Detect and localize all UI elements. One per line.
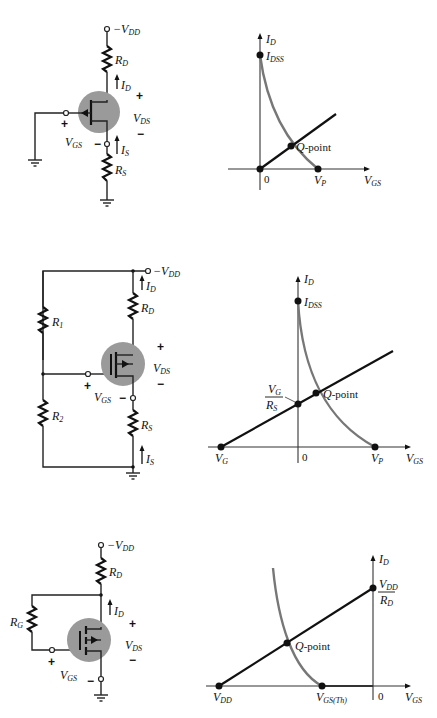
id-label: ID — [120, 78, 131, 93]
load-line — [221, 351, 393, 447]
vp-point — [315, 166, 322, 173]
id-label: ID — [145, 279, 156, 294]
r2-label: R2 — [51, 409, 63, 424]
intercept-point — [370, 585, 377, 592]
x-axis-label: VGS — [406, 451, 423, 466]
vds-minus: − — [157, 377, 164, 391]
id-label: ID — [113, 604, 124, 619]
intercept-label: VDD RD — [378, 577, 398, 608]
vds-label: VDS — [125, 638, 142, 653]
ground-icon — [94, 695, 108, 701]
vgs-label: VGS — [60, 668, 77, 683]
vgs-plus: + — [61, 117, 68, 131]
rs-label: RS — [140, 418, 152, 433]
vds-plus: + — [136, 89, 143, 103]
graph-jfet-self-bias: ID VGS IDSS 0 VP Q-point — [228, 32, 381, 190]
resistor-rd — [97, 558, 105, 584]
supply-terminal — [146, 269, 151, 274]
figure-canvas: −VDD RD ID + VGS − + VDS − IS — [0, 0, 437, 718]
x-axis-label: VGS — [364, 173, 381, 188]
intercept-point — [295, 401, 302, 408]
q-point — [284, 640, 291, 647]
vdd-point — [216, 683, 223, 690]
y-axis-label: ID — [303, 272, 314, 287]
resistor-rs — [103, 154, 111, 181]
vds-plus: + — [129, 617, 136, 631]
rg-label: RG — [9, 615, 23, 630]
ground-icon — [28, 160, 42, 166]
svg-text:RS: RS — [265, 398, 277, 413]
vg-label: VG — [215, 451, 228, 466]
origin-label: 0 — [378, 690, 384, 702]
vth-point — [319, 683, 326, 690]
resistor-rg — [28, 606, 36, 632]
rs-label: RS — [114, 163, 126, 178]
is-label: IS — [120, 143, 129, 158]
resistor-r1 — [39, 307, 47, 333]
vds-minus: − — [137, 127, 144, 141]
q-point — [288, 143, 295, 150]
idss-label: IDSS — [265, 49, 284, 64]
resistor-rs — [129, 410, 137, 436]
svg-text:VG: VG — [268, 382, 281, 397]
r1-label: R1 — [51, 315, 63, 330]
origin-point — [257, 166, 264, 173]
ground-icon — [100, 200, 114, 206]
svg-text:VDD: VDD — [379, 577, 398, 592]
vds-minus: − — [129, 653, 136, 667]
vgs-plus: + — [48, 655, 55, 669]
graph-mosfet-divider-bias: ID VGS IDSS VG VG RS Q-point 0 VP — [208, 272, 423, 466]
vp-label: VP — [371, 451, 383, 466]
is-label: IS — [145, 452, 154, 467]
supply-terminal — [99, 543, 104, 548]
resistor-r2 — [39, 400, 47, 426]
y-axis-label: ID — [378, 552, 389, 567]
circuit-mosfet-feedback-bias: −VDD RD RG ID + VGS − + VDS − — [9, 538, 142, 701]
supply-label: −VDD — [107, 538, 134, 553]
vg-point — [218, 444, 225, 451]
vp-label: VP — [314, 173, 326, 188]
vp-point — [372, 444, 379, 451]
origin-label: 0 — [302, 451, 308, 463]
circuit-mosfet-divider-bias: −VDD R1 R2 ID RD + VGS − + VD — [39, 264, 180, 479]
vds-label: VDS — [133, 111, 150, 126]
ground-icon — [126, 473, 140, 479]
vgs-minus: − — [119, 391, 126, 405]
resistor-rd — [129, 293, 137, 319]
vgs-minus: − — [87, 674, 94, 688]
graph-mosfet-feedback-bias: ID VGS VDD Q-point VGS(Th) 0 VDD RD — [206, 552, 422, 705]
q-point — [313, 390, 320, 397]
vds-plus: + — [157, 340, 164, 354]
vth-label: VGS(Th) — [316, 690, 347, 705]
x-axis-label: VGS — [405, 690, 422, 705]
q-point-label: Q-point — [296, 140, 331, 154]
origin-label: 0 — [264, 173, 270, 185]
vgs-minus: − — [94, 137, 101, 151]
vgs-label: VGS — [65, 135, 82, 150]
vds-label: VDS — [153, 361, 170, 376]
transfer-curve — [273, 568, 322, 686]
q-point-label: Q-point — [295, 639, 330, 653]
resistor-rd — [103, 46, 111, 72]
transfer-curve — [298, 301, 375, 447]
supply-label: −VDD — [153, 264, 180, 279]
vgs-plus: + — [84, 379, 91, 393]
vgs-label: VGS — [94, 390, 111, 405]
load-line — [219, 588, 373, 686]
idss-point — [295, 298, 302, 305]
idss-label: IDSS — [303, 295, 322, 310]
rd-label: RD — [108, 565, 122, 580]
q-point-label: Q-point — [323, 387, 358, 401]
svg-text:RD: RD — [379, 593, 393, 608]
supply-label: −VDD — [113, 22, 140, 37]
idss-point — [257, 52, 264, 59]
circuit-jfet-self-bias: −VDD RD ID + VGS − + VDS − IS — [28, 22, 150, 206]
vdd-label: VDD — [213, 690, 232, 705]
y-axis-label: ID — [265, 32, 276, 47]
rd-label: RD — [114, 53, 128, 68]
rd-label: RD — [140, 301, 154, 316]
supply-terminal — [105, 27, 110, 32]
